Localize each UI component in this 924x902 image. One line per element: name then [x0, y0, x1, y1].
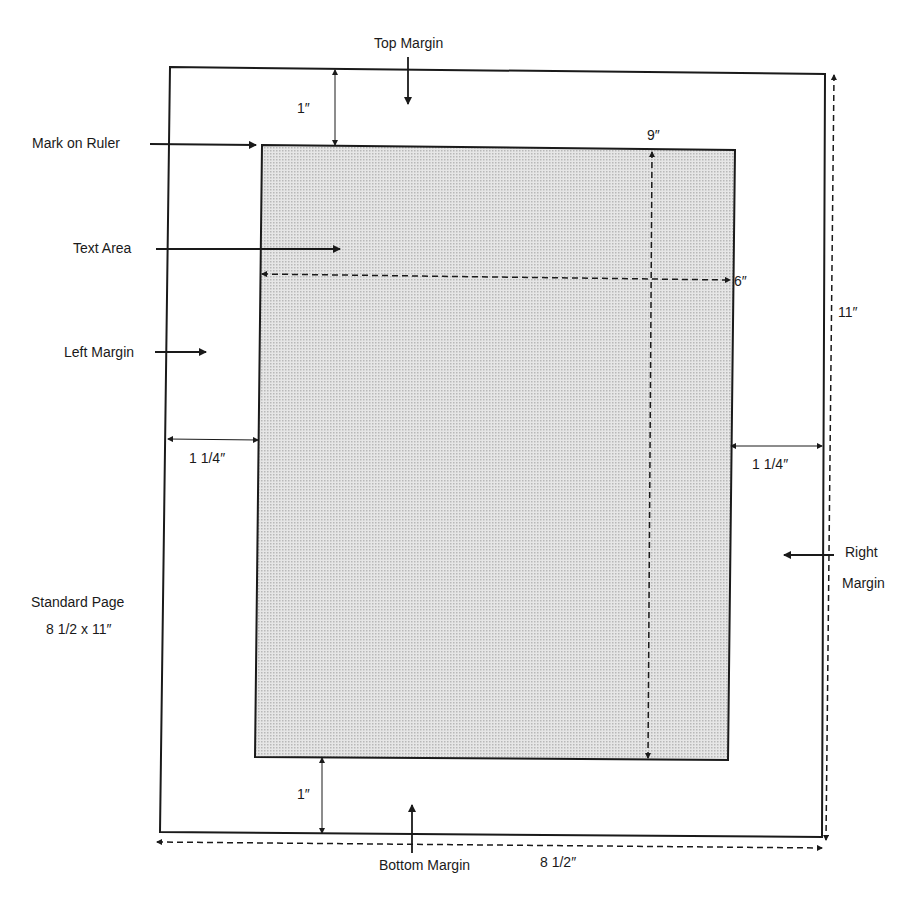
left-margin-value: 1 1/4″ [189, 451, 225, 465]
bottom-margin-label: Bottom Margin [379, 858, 470, 872]
mark-on-ruler-arrow [150, 144, 256, 145]
page-height-dimension [826, 75, 834, 840]
left-margin-dimension [168, 439, 258, 440]
text-area-label: Text Area [73, 241, 131, 255]
text-width-value: 6″ [734, 274, 747, 288]
mark-on-ruler-label: Mark on Ruler [32, 136, 120, 150]
top-margin-value: 1″ [297, 101, 310, 115]
page-layout-diagram [0, 0, 924, 902]
standard-page-label-line2: 8 1/2 x 11″ [46, 622, 111, 636]
left-margin-label: Left Margin [64, 345, 134, 359]
page-width-value: 8 1/2″ [540, 855, 576, 869]
page-height-value: 11″ [838, 305, 858, 319]
right-margin-label-line1: Right [845, 545, 878, 559]
text-area-box [255, 145, 735, 760]
page-width-dimension [157, 842, 822, 848]
bottom-margin-value: 1″ [297, 787, 310, 801]
top-margin-label: Top Margin [374, 36, 443, 50]
standard-page-label-line1: Standard Page [31, 595, 124, 609]
right-margin-value: 1 1/4″ [752, 457, 788, 471]
text-height-value: 9″ [647, 128, 660, 142]
right-margin-label-line2: Margin [842, 576, 885, 590]
